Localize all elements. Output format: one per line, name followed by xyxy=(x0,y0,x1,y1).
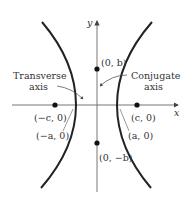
focus-right-dot xyxy=(134,102,139,107)
focus-right-label: (c, 0) xyxy=(131,112,156,123)
transverse-axis-label-2: axis xyxy=(29,81,48,92)
hyperbola-diagram: y x (0, b) (0, −b) (−c, 0) (−a, 0) (c, 0… xyxy=(0,0,191,203)
transverse-leader xyxy=(57,86,83,99)
vertex-right-label: (a, 0) xyxy=(128,130,153,141)
y-axis-label: y xyxy=(86,17,93,28)
vertex-left-label: (−a, 0) xyxy=(36,130,69,141)
focus-left-label: (−c, 0) xyxy=(34,112,67,123)
conjugate-leader xyxy=(100,75,127,86)
co-vertex-bottom-dot xyxy=(94,140,99,145)
transverse-axis-label-1: Transverse xyxy=(13,70,67,81)
x-axis-label: x xyxy=(174,107,180,118)
conjugate-axis-label-1: Conjugate xyxy=(131,70,181,81)
co-vertex-top-label: (0, b) xyxy=(101,57,127,68)
co-vertex-top-dot xyxy=(94,66,99,71)
co-vertex-bottom-label: (0, −b) xyxy=(99,152,133,163)
conjugate-axis-label-2: axis xyxy=(144,81,163,92)
vertex-right-leader xyxy=(120,109,129,131)
focus-left-dot xyxy=(52,102,57,107)
